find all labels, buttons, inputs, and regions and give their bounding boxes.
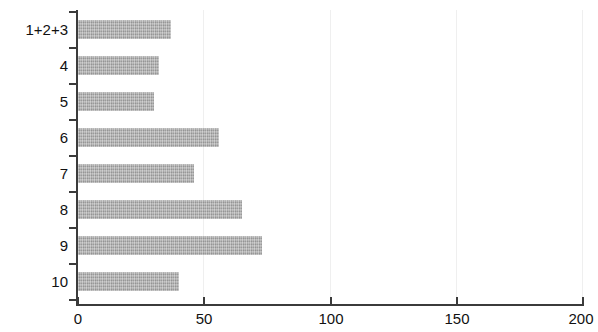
y-axis-label-5: 5 xyxy=(0,92,68,111)
x-axis-tick xyxy=(203,297,205,306)
y-axis-tick xyxy=(69,191,77,193)
bar-6 xyxy=(78,128,219,147)
bar-5 xyxy=(78,92,154,111)
y-axis-tick xyxy=(69,11,77,13)
y-axis-label-7: 7 xyxy=(0,164,68,183)
x-axis-tick-label-200: 200 xyxy=(568,310,593,328)
y-axis-tick xyxy=(69,299,77,301)
bar-4 xyxy=(78,56,159,75)
y-axis-tick xyxy=(69,47,77,49)
bar-1plus2plus3 xyxy=(78,20,171,39)
x-axis-tick xyxy=(77,297,79,306)
y-axis-label-4: 4 xyxy=(0,56,68,75)
x-axis-tick-label-50: 50 xyxy=(196,310,213,328)
y-axis-label-10: 10 xyxy=(0,272,68,291)
x-axis-tick-label-100: 100 xyxy=(318,310,343,328)
x-axis-tick-label-0: 0 xyxy=(74,310,82,328)
y-axis-tick xyxy=(69,227,77,229)
y-axis-tick xyxy=(69,119,77,121)
y-axis-label-9: 9 xyxy=(0,236,68,255)
gridline-200 xyxy=(582,10,583,305)
y-axis-line xyxy=(76,10,78,306)
x-axis-tick xyxy=(456,297,458,306)
plot-area xyxy=(77,10,583,305)
bar-9 xyxy=(78,236,262,255)
bar-7 xyxy=(78,164,194,183)
bar-10 xyxy=(78,272,179,291)
x-axis-tick xyxy=(582,297,584,306)
x-axis-tick-label-150: 150 xyxy=(444,310,469,328)
bar-chart: 1+2+3 4 5 6 7 8 9 10 0 50 100 150 200 xyxy=(0,0,598,332)
y-axis-tick xyxy=(69,83,77,85)
y-axis-label-6: 6 xyxy=(0,128,68,147)
gridline-100 xyxy=(330,10,331,305)
bar-8 xyxy=(78,200,242,219)
y-axis-tick xyxy=(69,155,77,157)
y-axis-label-1plus2plus3: 1+2+3 xyxy=(0,20,68,39)
x-axis-tick xyxy=(330,297,332,306)
y-axis-tick xyxy=(69,263,77,265)
gridline-150 xyxy=(456,10,457,305)
gridline-50 xyxy=(203,10,204,305)
y-axis-label-8: 8 xyxy=(0,200,68,219)
